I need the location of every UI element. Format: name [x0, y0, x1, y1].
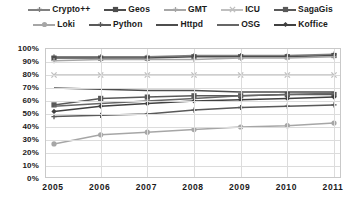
- legend-marker-icon: [37, 7, 42, 12]
- legend-marker-icon: [42, 22, 47, 27]
- legend-swatch-icon: [104, 4, 126, 15]
- y-tick-label: 90%: [22, 57, 39, 66]
- legend-item-gmt[interactable]: GMT: [164, 3, 207, 16]
- legend-item-crypto-[interactable]: Crypto++: [28, 3, 90, 16]
- y-tick-label: 80%: [22, 70, 39, 79]
- legend-item-geos[interactable]: Geos: [104, 3, 150, 16]
- y-tick-label: 50%: [22, 109, 39, 118]
- y-axis-labels: 0%10%20%30%40%50%60%70%80%90%100%: [0, 48, 42, 178]
- x-tick-label: 2006: [89, 182, 110, 192]
- gridline-horizontal: [46, 75, 340, 76]
- legend-label: GMT: [188, 4, 207, 15]
- x-tick-label: 2010: [276, 182, 297, 192]
- gridline-horizontal: [46, 88, 340, 89]
- line-chart: Crypto++GeosGMTICUSagaGis LokiPythonHttp…: [0, 0, 361, 203]
- legend-swatch-icon: [217, 19, 239, 30]
- legend-swatch-icon: [221, 4, 243, 15]
- gridline-horizontal: [46, 127, 340, 128]
- legend-item-python[interactable]: Python: [89, 18, 142, 31]
- legend-marker-icon: [98, 22, 103, 27]
- gridline-vertical: [241, 49, 242, 177]
- gridline-vertical: [147, 49, 148, 177]
- x-tick-label: 2009: [229, 182, 250, 192]
- series-marker: [51, 141, 56, 146]
- y-tick-label: 40%: [22, 122, 39, 131]
- gridline-horizontal: [46, 166, 340, 167]
- legend-swatch-icon: [28, 4, 50, 15]
- legend-item-httpd[interactable]: Httpd: [156, 18, 203, 31]
- legend-marker-icon: [173, 7, 178, 12]
- legend-label: SagaGis: [298, 4, 333, 15]
- x-axis-labels: 2005200620072008200920102011: [45, 182, 341, 196]
- legend-label: OSG: [241, 19, 260, 30]
- legend-label: Geos: [128, 4, 150, 15]
- gridline-horizontal: [46, 114, 340, 115]
- legend-row-2: LokiPythonHttpdOSGKoffice: [33, 18, 328, 31]
- y-tick-label: 0%: [27, 174, 39, 183]
- y-tick-label: 10%: [22, 161, 39, 170]
- gridline-vertical: [334, 49, 335, 177]
- legend-item-loki[interactable]: Loki: [33, 18, 75, 31]
- legend-marker-icon: [283, 22, 288, 27]
- legend-swatch-icon: [89, 19, 111, 30]
- y-tick-label: 70%: [22, 83, 39, 92]
- gridline-vertical: [287, 49, 288, 177]
- gridline-horizontal: [46, 140, 340, 141]
- legend-label: Httpd: [180, 19, 203, 30]
- legend-marker-icon: [113, 7, 118, 12]
- y-tick-label: 20%: [22, 148, 39, 157]
- plot-area: [45, 48, 341, 178]
- legend-swatch-icon: [33, 19, 55, 30]
- gridline-horizontal: [46, 101, 340, 102]
- legend-swatch-icon: [156, 19, 178, 30]
- gridline-horizontal: [46, 153, 340, 154]
- legend-item-koffice[interactable]: Koffice: [274, 18, 328, 31]
- legend-item-osg[interactable]: OSG: [217, 18, 260, 31]
- legend-label: Loki: [57, 19, 75, 30]
- legend-row-1: Crypto++GeosGMTICUSagaGis: [28, 3, 333, 16]
- x-tick-label: 2005: [42, 182, 63, 192]
- gridline-horizontal: [46, 62, 340, 63]
- legend-marker-icon: [283, 7, 288, 12]
- gridline-vertical: [194, 49, 195, 177]
- legend-marker-icon: [230, 7, 235, 12]
- legend-swatch-icon: [274, 19, 296, 30]
- legend-swatch-icon: [274, 4, 296, 15]
- legend-label: Crypto++: [52, 4, 90, 15]
- y-tick-label: 100%: [18, 44, 39, 53]
- x-tick-label: 2011: [323, 182, 344, 192]
- x-tick-label: 2008: [182, 182, 203, 192]
- x-tick-label: 2007: [136, 182, 157, 192]
- legend-item-icu[interactable]: ICU: [221, 3, 260, 16]
- legend-swatch-icon: [164, 4, 186, 15]
- legend-item-sagagis[interactable]: SagaGis: [274, 3, 333, 16]
- legend-label: ICU: [245, 4, 260, 15]
- legend-label: Python: [113, 19, 142, 30]
- legend-label: Koffice: [298, 19, 328, 30]
- y-tick-label: 60%: [22, 96, 39, 105]
- chart-legend: Crypto++GeosGMTICUSagaGis LokiPythonHttp…: [0, 3, 361, 31]
- y-tick-label: 30%: [22, 135, 39, 144]
- gridline-vertical: [101, 49, 102, 177]
